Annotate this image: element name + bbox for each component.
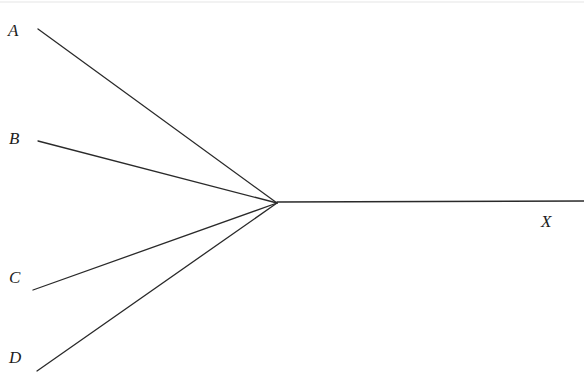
- figure-background: [0, 0, 584, 372]
- label-x: X: [541, 213, 551, 230]
- label-b: B: [9, 130, 19, 147]
- label-c: C: [9, 269, 20, 286]
- figure-canvas: A B C D X: [0, 0, 584, 372]
- converging-rays-diagram: [0, 0, 584, 372]
- label-a: A: [8, 22, 18, 39]
- label-d: D: [9, 349, 21, 366]
